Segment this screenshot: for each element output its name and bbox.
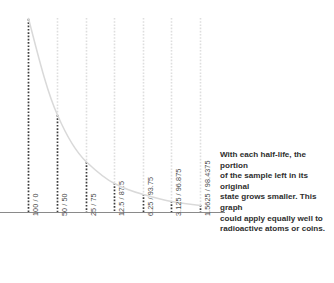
half-life-decay-figure: 100 / 0 50 / 50 25 / 75 12.5 / 87.5 6.25… (0, 0, 334, 283)
caption-line-4: could apply equally well to (220, 214, 332, 225)
caption-line-2: of the sample left in its original (220, 171, 332, 192)
tick-label-0: 100 / 0 (32, 193, 40, 216)
tick-label-1: 50 / 50 (61, 193, 69, 216)
caption-line-5: radioactive atoms or coins. (220, 224, 332, 235)
tick-label-2: 25 / 75 (90, 193, 98, 216)
caption-line-3: state grows smaller. This graph (220, 192, 332, 213)
tick-label-3: 12.5 / 87.5 (118, 181, 126, 216)
tick-label-4: 6.25 / 93.75 (147, 177, 155, 216)
decay-chart-plot (0, 0, 334, 283)
tick-label-6: 1.5625 / 98.4375 (204, 160, 212, 216)
caption-line-1: With each half-life, the portion (220, 150, 332, 171)
chart-caption: With each half-life, the portion of the … (220, 150, 332, 235)
tick-label-5: 3.125 / 96.875 (175, 169, 183, 216)
